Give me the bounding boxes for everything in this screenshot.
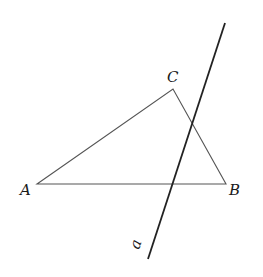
label-line-a: a <box>126 237 146 251</box>
geometry-diagram: C A B a <box>0 0 263 277</box>
triangle-abc <box>37 89 226 184</box>
label-a: A <box>18 181 31 199</box>
label-b: B <box>228 181 240 199</box>
label-c: C <box>167 68 179 86</box>
line-a <box>148 23 225 259</box>
